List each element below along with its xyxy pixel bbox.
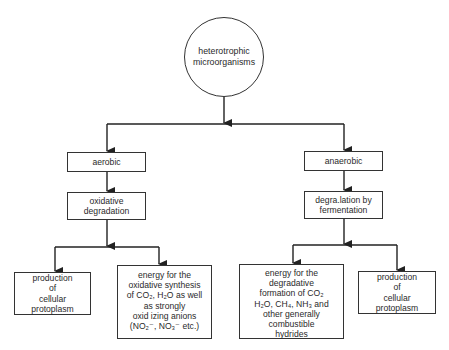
line: H₂O, CH₄, NH₃ and bbox=[254, 299, 328, 309]
flow-diagram: heterotrophic microorganisms aerobic oxi… bbox=[0, 0, 449, 350]
aerobic-label: aerobic bbox=[92, 157, 120, 167]
aerobic-production-node: production of cellular protoplasm bbox=[14, 272, 91, 315]
oxidative-degradation-label: oxidative degradation bbox=[84, 196, 129, 216]
oxidative-degradation-node: oxidative degradation bbox=[67, 192, 146, 220]
line: oxid izing anions bbox=[133, 311, 197, 321]
line: formation of CO₂ bbox=[260, 288, 324, 298]
line: cellular bbox=[383, 293, 410, 303]
line: energy for the bbox=[265, 268, 318, 278]
line: hydrides bbox=[275, 329, 307, 339]
anaerobic-label: anaerobic bbox=[325, 156, 363, 166]
fermentation-node: degra.lation by fermentation bbox=[304, 191, 383, 219]
line: production bbox=[377, 272, 417, 282]
line: combustible bbox=[269, 319, 315, 329]
anaerobic-production-node: production of cellular protoplasm bbox=[358, 271, 436, 314]
root-label: heterotrophic microorganisms bbox=[193, 46, 255, 68]
anaerobic-node: anaerobic bbox=[304, 151, 383, 171]
line: cellular bbox=[39, 294, 66, 304]
aerobic-energy-node: energy for the oxidative synthesis of CO… bbox=[117, 265, 212, 339]
line: protoplasm bbox=[31, 304, 74, 314]
line: (NO₂⁻, NO₃⁻ etc.) bbox=[130, 321, 199, 331]
anaerobic-energy-node: energy for the degradative formation of … bbox=[239, 264, 344, 339]
line: energy for the bbox=[138, 270, 191, 280]
line: other generally bbox=[263, 309, 320, 319]
fermentation-label: degra.lation by fermentation bbox=[315, 195, 371, 215]
root-node: heterotrophic microorganisms bbox=[184, 17, 264, 97]
line: degradative bbox=[269, 278, 314, 288]
line: of CO₂, H₂O as well bbox=[127, 290, 202, 300]
aerobic-node: aerobic bbox=[67, 152, 146, 172]
line: as strongly bbox=[144, 301, 186, 311]
line: oxidative synthesis bbox=[128, 280, 200, 290]
line: of bbox=[49, 283, 56, 293]
line: protoplasm bbox=[376, 303, 419, 313]
line: of bbox=[393, 282, 400, 292]
line: production bbox=[32, 273, 72, 283]
